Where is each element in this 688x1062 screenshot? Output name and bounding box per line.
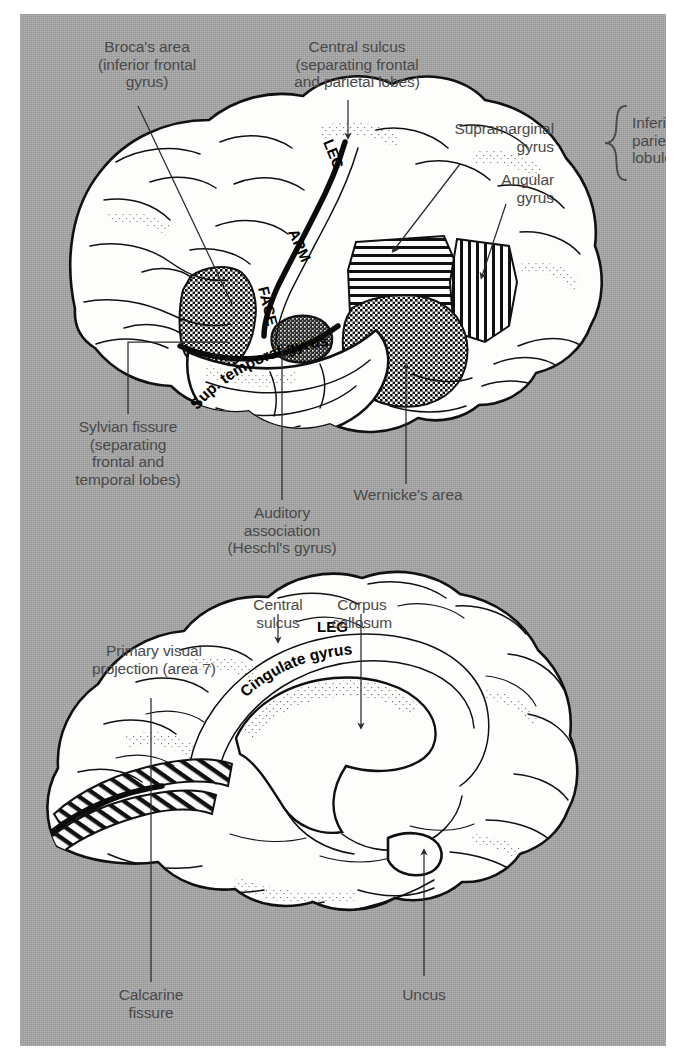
inferior-parietal-brace [605, 106, 626, 180]
label-brocas-area: Broca's area (inferior frontal gyrus) [52, 38, 242, 91]
label-corpus-callosum: Corpus callosum [306, 596, 418, 631]
figure-plate: LEG ARM FACE Sup. temporal gyrus [20, 14, 666, 1046]
label-primary-visual-projection: Primary visual projection (area 7) [52, 642, 256, 677]
label-inferior-parietal-lobule: Inferior parietal lobule [632, 114, 666, 167]
label-central-sulcus: Central sulcus (separating frontal and p… [245, 38, 469, 91]
label-calcarine-fissure: Calcarine fissure [86, 986, 216, 1021]
label-wernickes-area: Wernicke's area [328, 486, 488, 504]
label-angular-gyrus: Angular gyrus [368, 171, 554, 206]
label-auditory-association: Auditory association (Heschl's gyrus) [196, 504, 368, 557]
uncus-region [388, 833, 442, 875]
label-supramarginal-gyrus: Supramarginal gyrus [368, 120, 554, 155]
label-sylvian-fissure: Sylvian fissure (separating frontal and … [30, 418, 226, 488]
brain-anatomy-figure: LEG ARM FACE Sup. temporal gyrus [0, 0, 688, 1062]
label-uncus: Uncus [364, 986, 484, 1004]
